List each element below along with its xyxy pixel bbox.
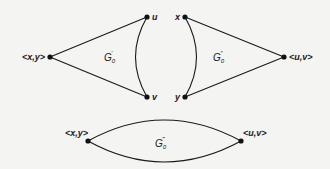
vertex-label-uv: <u,v> [289,52,313,62]
vertex-label-y: y [174,92,181,102]
vertex-xy [47,54,52,59]
gadget-label-g0-prime: G0′ [104,50,116,64]
gadget-g0-prime: <x,y> u v G0′ [22,12,158,102]
vertex-xy [85,138,90,143]
vertex-label-u: u [152,12,158,22]
edge-x-y [185,17,197,97]
gadget-label-g0-double-prime: G0″ [213,50,225,64]
edge-x-uv [185,17,284,57]
vertex-label-v: v [152,92,158,102]
vertex-y [182,94,187,99]
edge-u-v [136,17,148,97]
vertex-label-x: x [174,12,181,22]
gadget-label-g0-triple-prime: G0‴ [155,136,167,150]
edge-xy-u [50,17,147,57]
edge-upper-arc [88,120,241,141]
gadget-g0-triple-prime: <x,y> <u,v> G0‴ [65,120,267,162]
gadget-g0-double-prime: x y <u,v> G0″ [174,12,313,102]
vertex-label-uv: <u,v> [243,128,267,138]
vertex-label-xy: <x,y> [22,52,46,62]
gadget-diagram: <x,y> u v G0′ x y <u,v> G0″ <x,y> <u,v> … [0,0,330,169]
vertex-x [182,14,187,19]
vertex-uv [238,138,243,143]
vertex-label-xy: <x,y> [65,128,89,138]
vertex-uv [281,54,286,59]
edge-xy-v [50,57,147,97]
vertex-v [144,94,149,99]
edge-y-uv [185,57,284,97]
vertex-u [144,14,149,19]
